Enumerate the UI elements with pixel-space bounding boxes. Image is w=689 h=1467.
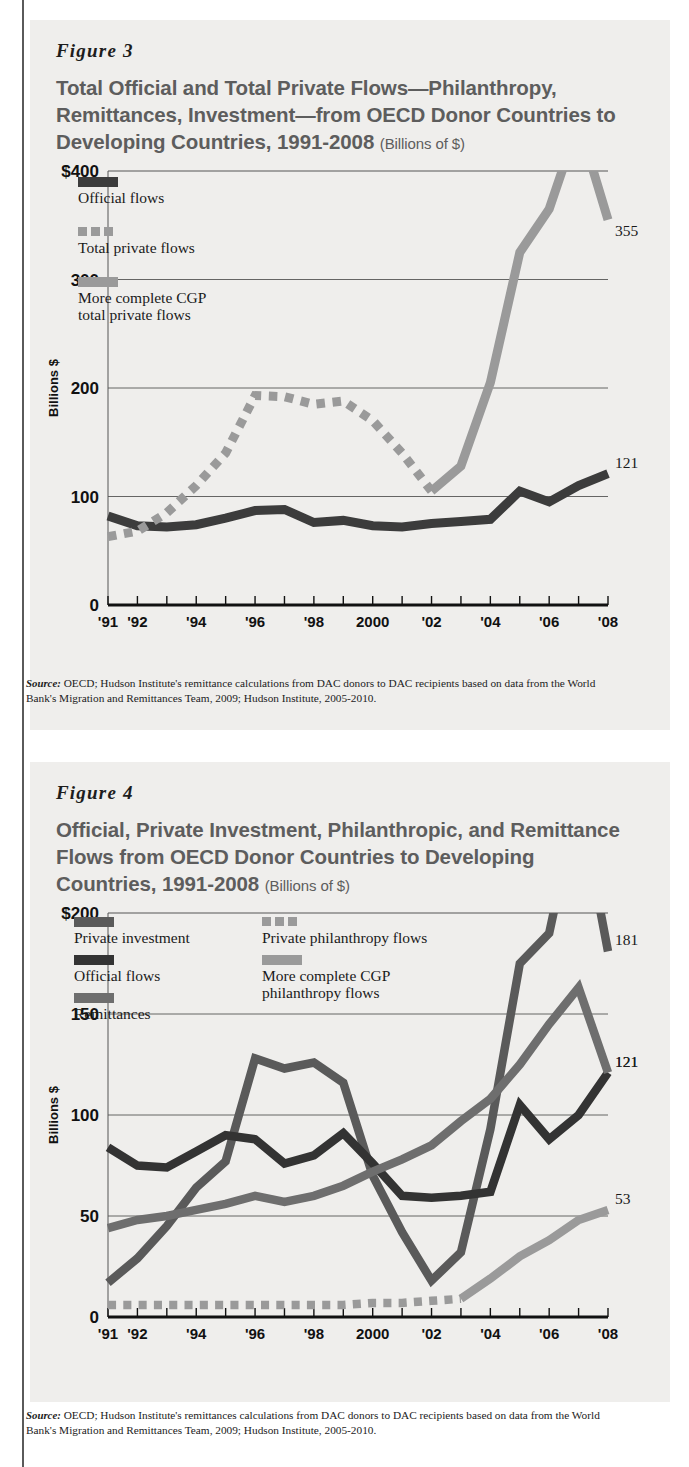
series-end-label: 121 xyxy=(615,1053,638,1070)
legend-swatch xyxy=(91,227,100,236)
figure-4-panel: Figure 4 Official, Private Investment, P… xyxy=(30,762,670,1402)
y-axis-title: Billions $ xyxy=(46,358,61,417)
legend-label: Total private flows xyxy=(78,239,195,256)
legend-label: More complete CGP xyxy=(262,967,390,984)
figure-4-title: Official, Private Investment, Philanthro… xyxy=(30,804,670,899)
legend-label: Private investment xyxy=(74,929,190,946)
figure-3-panel: Figure 3 Total Official and Total Privat… xyxy=(30,20,670,730)
legend-swatch xyxy=(74,993,114,1003)
x-axis-tick-label: '02 xyxy=(421,613,441,630)
series-line xyxy=(108,396,432,537)
x-axis-tick-label: '02 xyxy=(421,1325,441,1342)
x-axis-tick-label: '04 xyxy=(480,1325,501,1342)
legend-label-line2: total private flows xyxy=(78,306,191,323)
series-end-label: 181 xyxy=(615,931,638,948)
series-line xyxy=(108,899,608,1283)
figure-4-units: (Billions of $) xyxy=(265,877,350,894)
x-axis-tick-label: '98 xyxy=(304,1325,324,1342)
figure-3-title: Total Official and Total Private Flows—P… xyxy=(30,62,670,157)
legend-swatch xyxy=(104,227,113,236)
legend-swatch xyxy=(78,227,87,236)
x-axis-tick-label: '06 xyxy=(539,1325,559,1342)
legend-swatch xyxy=(78,177,118,187)
figure-3-source: Source: OECD; Hudson Institute's remitta… xyxy=(26,676,626,705)
legend-label: Private philanthropy flows xyxy=(262,929,427,946)
series-line xyxy=(108,1299,461,1305)
figure-4-source-prefix: Source: xyxy=(26,1409,61,1421)
x-axis-tick-label: '92 xyxy=(127,1325,147,1342)
legend-label: Official flows xyxy=(78,189,164,206)
page-edge-rule xyxy=(22,0,24,1467)
x-axis-tick-label: '06 xyxy=(539,613,559,630)
x-axis-tick-label: '92 xyxy=(127,613,147,630)
x-axis-tick-label: '96 xyxy=(245,613,265,630)
figure-4-chart: 050100150$200Billions $'91'92'94'96'9820… xyxy=(30,899,670,1359)
figure-3-title-text: Total Official and Total Private Flows—P… xyxy=(56,76,616,153)
figure-3-source-prefix: Source: xyxy=(26,677,61,689)
x-axis-tick-label: '94 xyxy=(186,613,207,630)
x-axis-tick-label: '96 xyxy=(245,1325,265,1342)
x-axis-tick-label: 2000 xyxy=(356,613,389,630)
legend-swatch xyxy=(275,917,284,926)
x-axis-tick-label: '91 xyxy=(98,1325,118,1342)
x-axis-tick-label: '08 xyxy=(598,1325,618,1342)
series-line xyxy=(432,157,609,491)
figure-4-label: Figure 4 xyxy=(30,762,670,804)
y-axis-tick-label: 50 xyxy=(80,1207,99,1226)
legend-label-line2: philanthropy flows xyxy=(262,984,380,1001)
series-end-label: 53 xyxy=(615,1190,631,1207)
legend-swatch xyxy=(78,277,118,287)
legend-swatch xyxy=(74,955,114,965)
legend-label: More complete CGP xyxy=(78,289,206,306)
figure-4-source: Source: OECD; Hudson Institute's remitta… xyxy=(26,1408,626,1437)
x-axis-tick-label: 2000 xyxy=(356,1325,389,1342)
series-line xyxy=(108,988,608,1228)
y-axis-tick-label: 100 xyxy=(71,1106,99,1125)
figure-3-units: (Billions of $) xyxy=(380,135,465,152)
legend-label: Official flows xyxy=(74,967,160,984)
series-line xyxy=(461,1210,608,1299)
series-end-label: 355 xyxy=(615,222,639,239)
y-axis-tick-label: 200 xyxy=(71,379,99,398)
x-axis-tick-label: '04 xyxy=(480,613,501,630)
series-end-label: 121 xyxy=(615,454,638,471)
legend-label: Remittances xyxy=(74,1005,151,1022)
figure-3-label: Figure 3 xyxy=(30,20,670,62)
y-axis-tick-label: 100 xyxy=(71,488,99,507)
legend-swatch xyxy=(262,955,302,965)
figure-4-plot: 050100150$200Billions $'91'92'94'96'9820… xyxy=(30,899,670,1359)
x-axis-tick-label: '94 xyxy=(186,1325,207,1342)
figure-4-source-text: OECD; Hudson Institute's remittances cal… xyxy=(26,1409,600,1436)
figure-3-chart: 0100200300$400Billions $'91'92'94'96'982… xyxy=(30,157,670,647)
figure-3-source-text: OECD; Hudson Institute's remittance calc… xyxy=(26,677,595,704)
y-axis-title: Billions $ xyxy=(46,1085,61,1144)
figure-3-plot: 0100200300$400Billions $'91'92'94'96'982… xyxy=(30,157,670,647)
legend-swatch xyxy=(262,917,271,926)
legend-swatch xyxy=(74,917,114,927)
legend-swatch xyxy=(288,917,297,926)
x-axis-tick-label: '98 xyxy=(304,613,324,630)
x-axis-tick-label: '08 xyxy=(598,613,618,630)
x-axis-tick-label: '91 xyxy=(98,613,118,630)
